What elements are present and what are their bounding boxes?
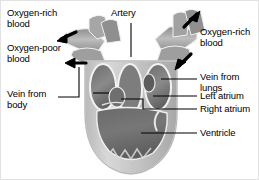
label-left-atrium: Left atrium [200,91,244,102]
label-right-atrium: Right atrium [200,104,250,115]
right-atrium-chamber [109,87,125,107]
great-vessels-left [64,15,121,63]
label-artery: Artery [111,8,136,19]
left-atrium-chamber [143,74,155,92]
label-vein-from-body: Vein from body [7,89,46,110]
label-oxygen-rich-blood-right: Oxygen-rich blood [200,27,250,48]
label-ventricle: Ventricle [200,128,236,139]
label-oxygen-rich-blood-left: Oxygen-rich blood [7,8,57,29]
leader-vein-from-body [58,67,79,97]
label-oxygen-poor-blood-left: Oxygen-poor blood [7,43,61,64]
heart-diagram-figure: Oxygen-rich blood Oxygen-poor blood Vein… [0,0,259,180]
